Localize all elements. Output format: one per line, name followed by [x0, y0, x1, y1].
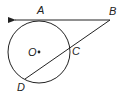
label-B: B	[109, 5, 116, 17]
label-D: D	[17, 81, 25, 93]
secant-BD	[25, 20, 110, 79]
label-A: A	[36, 4, 44, 16]
label-O: O	[28, 46, 37, 58]
diagram-canvas: A B O C D	[0, 0, 122, 97]
label-C: C	[72, 45, 80, 57]
geometry-diagram: A B O C D	[0, 0, 122, 97]
center-point-O	[38, 51, 41, 54]
